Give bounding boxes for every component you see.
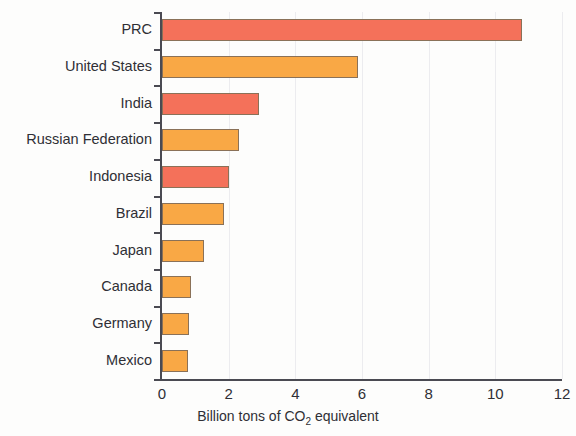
bar-fill (162, 313, 189, 335)
x-axis-title: Billion tons of CO2 equivalent (0, 408, 576, 427)
gridline (362, 12, 363, 379)
y-axis-label-indonesia: Indonesia (0, 168, 152, 184)
y-axis-tick (154, 269, 161, 271)
y-axis-tick (154, 196, 161, 198)
x-axis-line (161, 379, 562, 381)
bar-fill (162, 129, 239, 151)
bar (162, 276, 191, 298)
x-axis-tick-label: 6 (342, 385, 382, 402)
x-axis-tick-label: 8 (409, 385, 449, 402)
x-axis-tick-label: 0 (142, 385, 182, 402)
bar-chart: PRCUnited StatesIndiaRussian FederationI… (0, 0, 576, 436)
x-axis-tick-label: 12 (542, 385, 576, 402)
y-axis-label-united-states: United States (0, 58, 152, 74)
y-axis-tick (154, 306, 161, 308)
bar (162, 129, 239, 151)
bar-fill (162, 166, 229, 188)
y-axis-label-russian-federation: Russian Federation (0, 131, 152, 147)
y-axis-label-canada: Canada (0, 278, 152, 294)
x-axis-tick-label: 2 (209, 385, 249, 402)
y-axis-tick (154, 12, 161, 14)
bar-fill (162, 350, 188, 372)
gridline (495, 12, 496, 379)
x-axis-tick-label: 4 (275, 385, 315, 402)
x-axis-title-prefix: Billion tons of CO (197, 408, 305, 424)
y-axis-label-brazil: Brazil (0, 205, 152, 221)
bar-fill (162, 276, 191, 298)
gridline (562, 12, 563, 379)
y-axis-category-labels: PRCUnited StatesIndiaRussian FederationI… (0, 12, 152, 379)
y-axis-label-japan: Japan (0, 242, 152, 258)
y-axis-tick (154, 85, 161, 87)
y-axis-tick (154, 232, 161, 234)
y-axis-tick (154, 342, 161, 344)
bar (162, 56, 358, 78)
y-axis-tick (154, 122, 161, 124)
bar (162, 166, 229, 188)
y-axis-tick (154, 49, 161, 51)
y-axis-label-india: India (0, 95, 152, 111)
bar (162, 350, 188, 372)
bar (162, 203, 224, 225)
bar (162, 240, 204, 262)
gridline (429, 12, 430, 379)
y-axis-tick (154, 379, 161, 381)
bar (162, 19, 522, 41)
bar-fill (162, 93, 259, 115)
bar (162, 313, 189, 335)
x-axis-title-suffix: equivalent (311, 408, 379, 424)
y-axis-tick (154, 159, 161, 161)
plot-area (162, 12, 562, 379)
bar-fill (162, 56, 358, 78)
bar-fill (162, 240, 204, 262)
bar-fill (162, 19, 522, 41)
bar (162, 93, 259, 115)
y-axis-label-mexico: Mexico (0, 352, 152, 368)
bar-fill (162, 203, 224, 225)
y-axis-label-prc: PRC (0, 21, 152, 37)
x-axis-tick-label: 10 (475, 385, 515, 402)
y-axis-label-germany: Germany (0, 315, 152, 331)
